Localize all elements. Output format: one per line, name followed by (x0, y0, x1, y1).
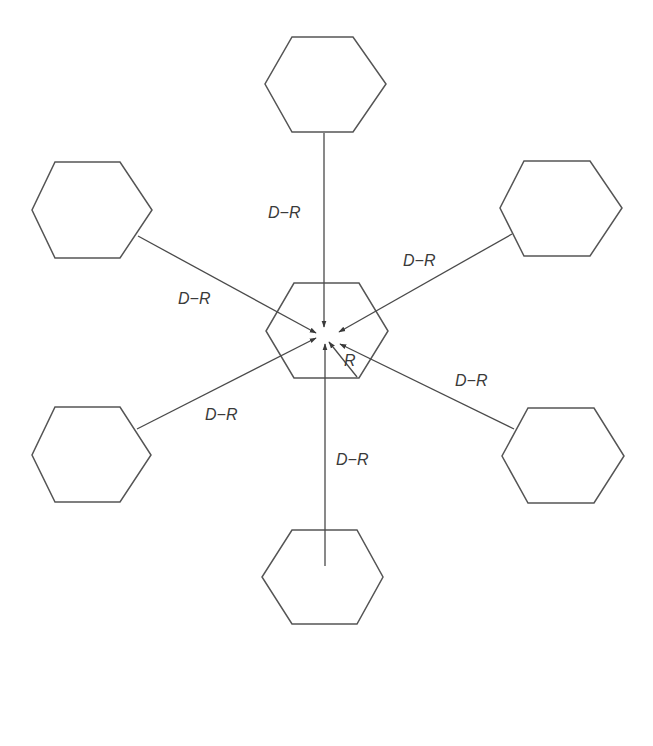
arrows-layer (137, 133, 514, 566)
hexagon-cell-lower-left (32, 407, 151, 502)
label-upper-left: D−R (178, 290, 211, 307)
hexagon-cell-bottom (262, 530, 383, 624)
arrow-from-lower-right (340, 344, 514, 429)
hexagon-cell-upper-left (32, 162, 152, 258)
hexagon-cell-upper-right (500, 161, 622, 256)
label-lower-left: D−R (205, 406, 238, 423)
label-lower-right: D−R (455, 372, 488, 389)
arrow-from-upper-right (339, 234, 512, 332)
hexagon-cell-top (265, 37, 386, 132)
hexagonal-cell-diagram: D−RD−RD−RD−RD−RD−RR (0, 0, 653, 746)
hexagon-cell-lower-right (502, 408, 624, 503)
label-upper-right: D−R (403, 252, 436, 269)
cells-layer (32, 37, 624, 624)
label-radius: R (344, 352, 356, 369)
arrow-from-upper-left (138, 236, 316, 333)
label-bottom: D−R (336, 451, 369, 468)
labels-layer: D−RD−RD−RD−RD−RD−RR (178, 204, 488, 468)
label-top: D−R (268, 204, 301, 221)
hexagon-cell-center (266, 283, 388, 378)
